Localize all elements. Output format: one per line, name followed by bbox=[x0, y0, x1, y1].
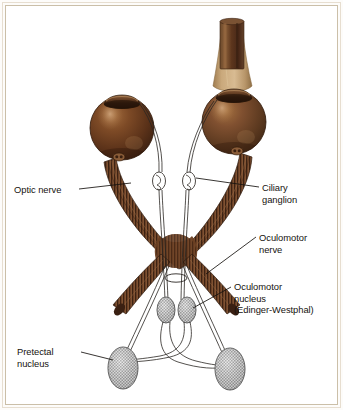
leader-pretectal-nucleus bbox=[81, 352, 113, 360]
optic-nerve-label: Optic nerve bbox=[14, 184, 61, 196]
brainstem-cylinder bbox=[220, 18, 244, 69]
leader-ciliary-ganglion bbox=[196, 178, 259, 187]
oculomotor-nerve-label: Oculomotor nerve bbox=[259, 232, 307, 255]
right-cornea bbox=[216, 89, 252, 103]
left-cornea bbox=[104, 95, 140, 109]
right-eyeball bbox=[202, 89, 266, 166]
figure-root: Optic nerve Ciliary ganglion Oculomotor … bbox=[0, 0, 343, 410]
right-oculomotor-nucleus bbox=[178, 297, 196, 323]
left-pretectal-nucleus bbox=[108, 347, 138, 389]
left-ciliary-ganglion bbox=[153, 172, 166, 190]
right-optic-disc bbox=[231, 147, 243, 155]
leader-oculomotor-nerve bbox=[206, 237, 256, 274]
internuncial-fibers bbox=[122, 322, 228, 368]
oculomotor-nucleus-label: Oculomotor nucleus (Edinger-Westphal) bbox=[234, 281, 314, 316]
left-optic-disc bbox=[113, 153, 125, 161]
right-pretectal-nucleus bbox=[215, 348, 245, 390]
left-eyeball bbox=[90, 95, 154, 172]
pretectal-nucleus-label: Pretectal nucleus bbox=[17, 346, 54, 369]
chiasm-ring bbox=[165, 274, 187, 282]
ciliary-ganglion-label: Ciliary ganglion bbox=[262, 182, 297, 205]
left-oculomotor-nucleus bbox=[157, 297, 175, 323]
right-ciliary-ganglion bbox=[183, 172, 196, 190]
